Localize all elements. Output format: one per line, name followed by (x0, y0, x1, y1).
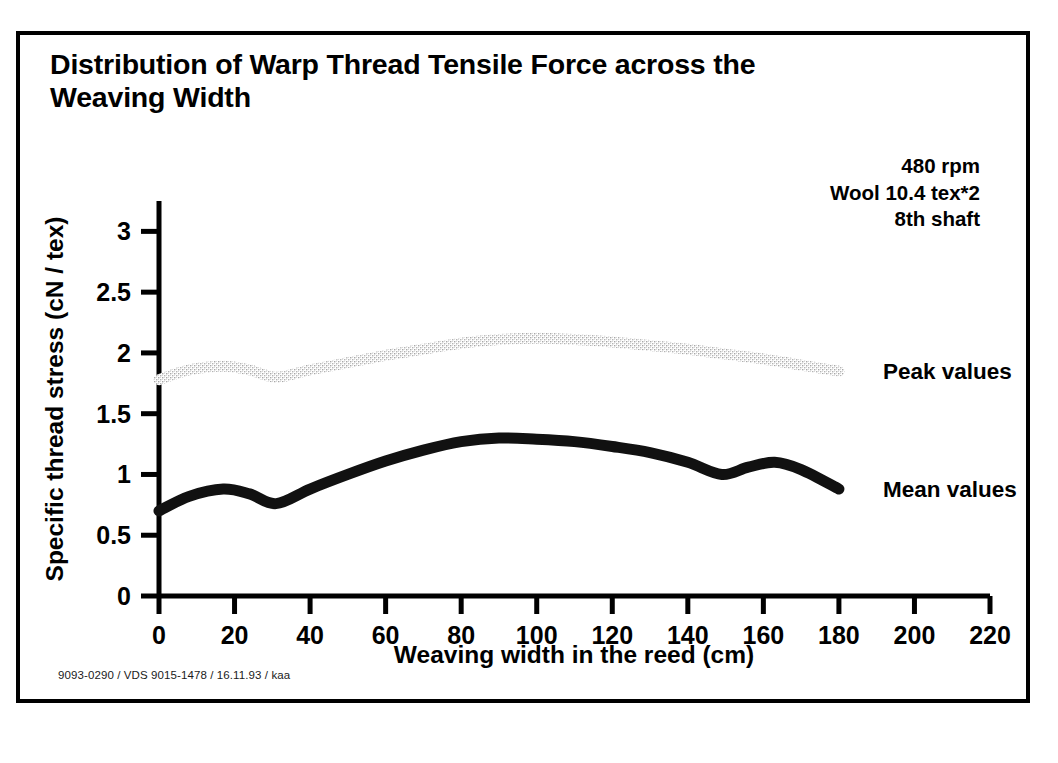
x-axis-title: Weaving width in the reed (cm) (394, 641, 754, 668)
y-axis-title: Specific thread stress (cN / tex) (41, 217, 68, 582)
footer-reference-note: 9093-0290 / VDS 9015-1478 / 16.11.93 / k… (58, 669, 290, 681)
x-tick-label: 180 (818, 621, 860, 649)
y-tick-label: 1 (117, 460, 131, 488)
y-tick-label: 0.5 (96, 521, 131, 549)
y-tick-label: 3 (117, 217, 131, 245)
x-tick-label: 0 (152, 621, 166, 649)
figure-frame: Distribution of Warp Thread Tensile Forc… (16, 31, 1030, 703)
data-series-layer (159, 338, 839, 511)
x-axis-ticks (159, 596, 990, 614)
axis-lines (159, 201, 990, 596)
x-tick-label: 40 (296, 621, 324, 649)
y-tick-label: 2 (117, 339, 131, 367)
series-line-peak-values (159, 338, 839, 379)
x-tick-label: 20 (221, 621, 249, 649)
y-axis-tick-labels: 00.511.522.53 (96, 217, 131, 610)
y-tick-label: 1.5 (96, 400, 131, 428)
y-tick-label: 2.5 (96, 278, 131, 306)
y-tick-label: 0 (117, 582, 131, 610)
series-label-peak-values: Peak values (883, 359, 1012, 384)
chart-plot: 00.511.522.53 02040608010012014016018020… (20, 35, 1026, 699)
x-tick-label: 220 (969, 621, 1011, 649)
series-label-mean-values: Mean values (883, 477, 1017, 502)
y-axis-ticks (141, 231, 159, 596)
series-line-mean-values (159, 438, 839, 511)
series-labels: Peak valuesMean values (883, 359, 1017, 502)
x-tick-label: 200 (894, 621, 936, 649)
